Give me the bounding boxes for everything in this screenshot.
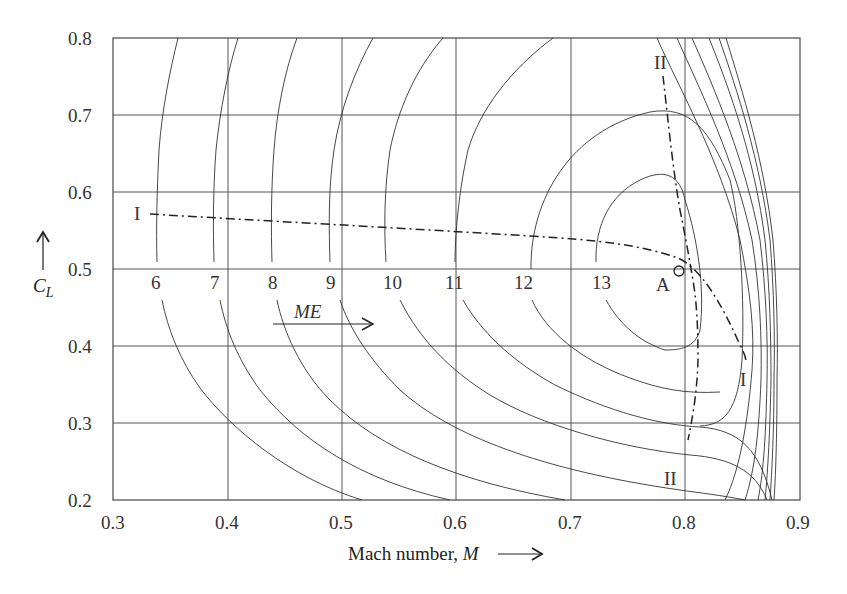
x-tick: 0.9: [786, 512, 810, 533]
contour-7-upper: [213, 38, 238, 262]
line-ii-top-label: II: [654, 52, 667, 73]
contour-label-9: 9: [326, 272, 336, 293]
contour-8-lower: [277, 300, 565, 500]
contour-11-upper: [455, 38, 553, 262]
contour-label-12: 12: [514, 272, 533, 293]
y-tick: 0.4: [68, 336, 92, 357]
contour-label-11: 11: [445, 272, 463, 293]
contour-label-13: 13: [592, 272, 611, 293]
line-i-start-label: I: [134, 203, 140, 224]
x-axis-variable: M: [462, 543, 480, 564]
y-tick: 0.3: [68, 413, 92, 434]
contour-10-upper: [385, 38, 443, 262]
grid: [113, 38, 800, 500]
me-direction-arrow: [273, 318, 373, 330]
y-tick: 0.7: [68, 105, 92, 126]
contour-10-lower: [400, 300, 767, 500]
contour-label-8: 8: [268, 272, 278, 293]
contour-11-lower: [463, 300, 772, 500]
contour-label-6: 6: [151, 272, 161, 293]
contour-12-upper: [531, 111, 743, 426]
y-axis-subscript: L: [45, 285, 54, 300]
line-ii-bottom-label: II: [664, 468, 677, 489]
line-ii-ii: [663, 76, 698, 440]
point-a-label: A: [656, 274, 670, 295]
svg-text:Mach number, M: Mach number, M: [348, 543, 480, 564]
svg-text:CL: CL: [33, 275, 54, 300]
x-axis-label-text: Mach number,: [348, 543, 463, 564]
x-axis-title: Mach number, M: [348, 543, 542, 564]
me-label: ME: [293, 301, 322, 322]
y-tick: 0.8: [68, 28, 92, 49]
x-tick: 0.6: [443, 512, 467, 533]
contour-8-upper: [271, 38, 297, 262]
x-tick: 0.3: [101, 512, 125, 533]
contour-6-lower: [162, 300, 362, 500]
x-tick: 0.5: [329, 512, 353, 533]
y-axis-title: CL: [33, 232, 54, 300]
y-axis-variable: C: [33, 275, 46, 296]
point-a-marker: [674, 266, 684, 276]
contour-13-lower: [606, 300, 665, 350]
contour-label-7: 7: [210, 272, 220, 293]
contour-9-lower: [340, 300, 745, 500]
x-tick: 0.7: [558, 512, 582, 533]
x-tick: 0.8: [672, 512, 696, 533]
contour-9-upper: [329, 38, 373, 262]
contour-label-10: 10: [383, 272, 402, 293]
me-contour-chart: 6 7 8 9 10 11 12 13 A I I II II ME 0.8 0…: [0, 0, 847, 594]
line-i-end-label: I: [740, 369, 746, 390]
y-axis-ticks: 0.8 0.7 0.6 0.5 0.4 0.3 0.2: [68, 28, 92, 511]
x-axis-ticks: 0.3 0.4 0.5 0.6 0.7 0.8 0.9: [101, 512, 810, 533]
y-tick: 0.5: [68, 259, 92, 280]
contour-6-upper: [157, 38, 178, 262]
contour-7-lower: [220, 300, 450, 500]
y-tick: 0.2: [68, 490, 92, 511]
y-tick: 0.6: [68, 182, 92, 203]
x-tick: 0.4: [215, 512, 239, 533]
